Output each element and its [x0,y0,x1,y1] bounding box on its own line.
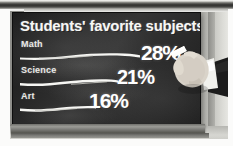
top-dark-bar [0,0,233,9]
chart-title: Students' favorite subjects [20,17,200,34]
hand-with-chalk-icon [168,40,233,102]
bar-label-math: Math [21,39,43,49]
bar-value-science: 21% [117,66,154,89]
bar-math [19,51,141,60]
photo-border-right [228,9,233,146]
top-bar-shadow [24,9,233,12]
bar-art [19,103,97,112]
photo-border-left [0,9,10,146]
chalk-ledge [11,124,205,133]
chalk-ledge-shadow [11,133,209,138]
photo-border-bottom [0,139,233,146]
photo-frame: Students' favorite subjects Math 28% Sci… [0,0,233,146]
bar-label-art: Art [21,91,35,101]
bar-label-science: Science [21,65,56,75]
bar-value-art: 16% [89,89,128,113]
bar-science [19,77,119,86]
